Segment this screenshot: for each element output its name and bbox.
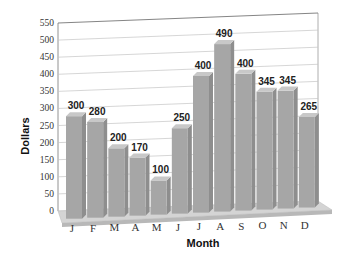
bar	[214, 40, 234, 211]
x-tick-label: J	[176, 221, 181, 233]
x-tick-label: N	[280, 219, 288, 231]
bar-value-label: 100	[152, 164, 169, 175]
bar-value-label: 170	[131, 142, 148, 153]
y-tick-label: 400	[40, 69, 55, 79]
y-tick-label: 350	[40, 86, 55, 96]
bar	[172, 124, 192, 213]
x-tick-label: J	[197, 220, 202, 232]
bar-chart: 050100150200250300350400450500550 JFMAMJ…	[0, 0, 354, 266]
bar-value-label: 345	[258, 76, 275, 87]
bar	[299, 113, 319, 208]
bar	[257, 88, 277, 210]
y-tick-label: 50	[45, 189, 55, 199]
x-tick-label: A	[132, 221, 140, 233]
bar-value-label: 490	[216, 28, 233, 39]
bar	[235, 70, 255, 211]
x-tick-label: S	[238, 220, 244, 232]
bar-value-label: 400	[195, 60, 212, 71]
bar-value-label: 250	[173, 112, 190, 123]
bars	[66, 40, 319, 219]
x-axis-title: Month	[187, 237, 220, 249]
x-tick-label: J	[70, 222, 75, 234]
bar-value-label: 300	[68, 100, 85, 111]
y-tick-label: 200	[40, 138, 55, 148]
bar	[193, 72, 213, 213]
y-tick-label: 500	[40, 35, 55, 45]
y-axis-title: Dollars	[19, 117, 31, 154]
bar	[130, 154, 150, 216]
y-tick-label: 300	[40, 103, 55, 113]
bar	[87, 118, 107, 218]
x-tick-label: M	[152, 221, 162, 233]
x-tick-label: M	[109, 221, 119, 233]
bar-value-label: 280	[89, 106, 106, 117]
bar-value-label: 200	[110, 132, 127, 143]
y-tick-label: 0	[49, 206, 54, 216]
bar	[151, 176, 171, 214]
x-tick-label: O	[259, 219, 267, 231]
bar-value-label: 265	[300, 101, 317, 112]
x-tick-label: A	[216, 220, 224, 232]
bar	[108, 144, 128, 216]
x-tick-label: F	[90, 222, 96, 234]
y-tick-label: 550	[40, 18, 55, 28]
bar	[66, 112, 86, 219]
bar-value-label: 345	[279, 75, 296, 86]
bar	[278, 87, 298, 209]
bar-value-label: 400	[237, 58, 254, 69]
y-tick-label: 150	[40, 155, 55, 165]
y-axis-ticks: 050100150200250300350400450500550	[40, 18, 55, 216]
y-tick-label: 450	[40, 52, 55, 62]
x-tick-label: D	[301, 219, 309, 231]
y-tick-label: 250	[40, 121, 55, 131]
y-tick-label: 100	[40, 172, 55, 182]
